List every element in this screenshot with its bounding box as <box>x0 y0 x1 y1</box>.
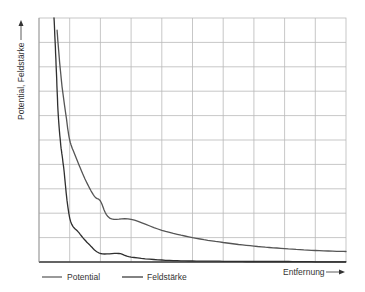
legend-potential-label: Potential <box>67 272 100 282</box>
y-axis-label-group: Potential, Feldstärke <box>16 20 26 120</box>
chart: Potential, Feldstärke Entfernung Potenti… <box>0 0 365 292</box>
x-axis-label-group: Entfernung <box>283 267 345 277</box>
legend-feldstaerke-label: Feldstärke <box>147 272 187 282</box>
x-axis-label: Entfernung <box>283 267 325 277</box>
x-axis-arrow-icon <box>339 270 345 275</box>
legend: Potential Feldstärke <box>42 272 187 282</box>
y-axis-arrow-icon <box>19 20 24 26</box>
y-axis-label: Potential, Feldstärke <box>16 42 26 120</box>
grid-lines <box>39 18 346 262</box>
